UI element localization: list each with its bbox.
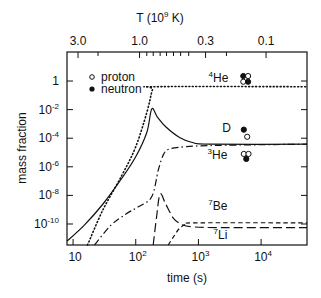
top-tick-label: 0.3 [197, 34, 214, 48]
y-tick-label: 1 [52, 74, 59, 88]
marker-neutron-d [241, 127, 246, 132]
legend-marker-neutron [89, 86, 94, 91]
top-tick-label: 1.0 [131, 34, 148, 48]
x-axis-ticks: 10102103104 [68, 239, 272, 264]
curve-7be [153, 194, 307, 245]
nucleosynthesis-chart: T (109 K) 3.01.00.30.1 10102103104 110-2… [0, 0, 321, 298]
y-tick-label: 10-8 [39, 187, 60, 202]
curve-4he [88, 87, 308, 245]
x-tick-label: 104 [254, 249, 272, 264]
curve-3he [95, 144, 308, 245]
curve-label-4he: 4He [209, 70, 229, 85]
curve-label-d: D [222, 121, 231, 135]
top-axis-title: T (109 K) [136, 10, 184, 25]
curve-label-7li: 7Li [214, 227, 228, 242]
x-tick-label: 102 [129, 249, 147, 264]
x-axis-title: time (s) [167, 271, 207, 285]
legend-marker-proton [90, 75, 95, 80]
marker-proton-d [245, 134, 250, 139]
curves [67, 87, 307, 245]
marker-proton-4he [245, 73, 250, 78]
x-tick-label: 10 [68, 250, 82, 264]
y-tick-label: 10-6 [39, 159, 60, 174]
y-tick-label: 10-4 [39, 130, 60, 145]
curve-d [67, 108, 307, 241]
curve-label-7be: 7Be [208, 198, 227, 213]
top-tick-label: 3.0 [70, 34, 87, 48]
x-tick-label: 103 [192, 249, 210, 264]
curve-label-3he: 3He [208, 147, 228, 162]
y-axis-ticks: 110-210-410-610-810-10 [34, 74, 307, 231]
y-tick-label: 10-10 [34, 216, 59, 231]
y-axis-title: mass fraction [15, 112, 29, 183]
marker-neutron-3he [244, 156, 249, 161]
marker-proton-3he [246, 151, 251, 156]
marker-neutron-4he [245, 79, 250, 84]
legend-label-neutron: neutron [101, 82, 142, 96]
top-axis-ticks: 3.01.00.30.1 [70, 34, 275, 58]
curve-labels: 4HeD3He7Be7Li [208, 70, 232, 242]
top-tick-label: 0.1 [258, 34, 275, 48]
legend: proton neutron [89, 70, 141, 96]
y-tick-label: 10-2 [39, 102, 60, 117]
